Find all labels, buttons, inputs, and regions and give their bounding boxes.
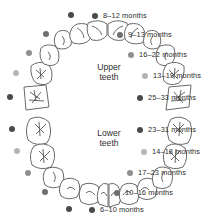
legend-label: 13–19 months <box>153 72 201 80</box>
upper-teeth-label-line1: Upper <box>83 62 135 72</box>
legend-dot-icon <box>137 127 143 133</box>
upper-teeth-label: Upper teeth <box>83 62 135 82</box>
legend-label: 6–10 months <box>100 206 144 214</box>
legend-item-17-23-months: 17–23 months <box>127 169 186 177</box>
legend-dot-icon <box>114 190 120 196</box>
legend-label: 23–31 months <box>148 126 196 134</box>
arch-dot-upper-central-incisor-left <box>68 12 74 18</box>
legend-label: 10–16 months <box>125 189 173 197</box>
tooth-eruption-chart: Upper teeth Lower teeth 8–12 months9–13 … <box>0 0 224 221</box>
legend-item-25-33-months: 25–33 months <box>137 94 196 102</box>
legend-label: 14–18 months <box>152 148 200 156</box>
legend-label: 25–33 months <box>148 94 196 102</box>
arch-dot-lower-first-molar-left <box>14 148 20 154</box>
legend-dot-icon <box>128 52 134 58</box>
upper-teeth-label-line2: teeth <box>83 72 135 82</box>
lower-teeth-label-line2: teeth <box>83 138 135 148</box>
legend-item-6-10-months: 6–10 months <box>89 206 144 214</box>
legend-dot-icon <box>92 13 98 19</box>
legend-dot-icon <box>137 95 143 101</box>
tooth-lower-left-central-incisor <box>79 183 100 204</box>
arch-dot-upper-second-molar-left <box>7 94 13 100</box>
lower-teeth-label: Lower teeth <box>83 128 135 148</box>
legend-dot-icon <box>89 207 95 213</box>
arch-dot-lower-central-incisor-left <box>66 206 72 212</box>
legend-dot-icon <box>127 170 133 176</box>
arch-dot-lower-second-molar-left <box>9 126 15 132</box>
legend-item-14-18-months: 14–18 months <box>141 148 200 156</box>
legend-label: 9–13 months <box>128 31 172 39</box>
tooth-upper-middle-left-incisor <box>87 21 107 41</box>
legend-label: 16–22 months <box>139 51 187 59</box>
tooth-lower-left-first-molar <box>30 144 54 169</box>
tooth-lower-left-second-molar <box>26 117 50 144</box>
legend-label: 8–12 months <box>103 12 147 20</box>
arch-dot-upper-first-molar-left <box>13 70 19 76</box>
legend-item-13-19-months: 13–19 months <box>142 72 201 80</box>
arch-dot-upper-canine-left <box>26 50 32 56</box>
tooth-upper-left-lateral-incisor <box>54 30 71 49</box>
legend-label: 17–23 months <box>138 169 186 177</box>
legend-item-10-16-months: 10–16 months <box>114 189 173 197</box>
legend-item-23-31-months: 23–31 months <box>137 126 196 134</box>
lower-teeth-label-line1: Lower <box>83 128 135 138</box>
legend-item-8-12-months: 8–12 months <box>92 12 147 20</box>
arch-dot-lower-lateral-incisor-left <box>42 189 48 195</box>
legend-dot-icon <box>142 73 148 79</box>
arch-dot-lower-canine-left <box>25 170 31 176</box>
tooth-lower-left-lateral-incisor <box>59 178 79 199</box>
tooth-upper-left-canine <box>40 45 59 66</box>
arch-dot-upper-lateral-incisor-left <box>43 31 49 37</box>
legend-item-16-22-months: 16–22 months <box>128 51 187 59</box>
teeth-arch-diagram <box>0 0 224 221</box>
legend-item-9-13-months: 9–13 months <box>117 31 172 39</box>
tooth-upper-left-second-molar <box>24 85 49 110</box>
legend-dot-icon <box>117 32 123 38</box>
legend-dot-icon <box>141 149 147 155</box>
